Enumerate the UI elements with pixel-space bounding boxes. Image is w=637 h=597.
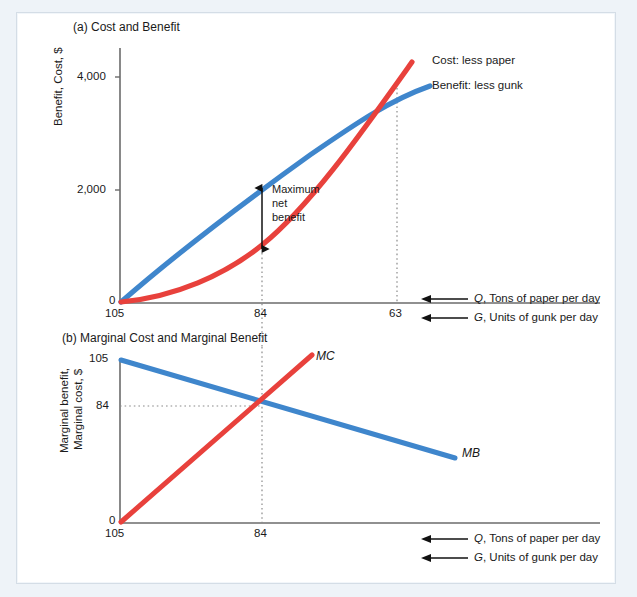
max-net-benefit-line2: net xyxy=(272,197,287,210)
panel-b-q-symbol: Q xyxy=(474,532,483,544)
panel-b-y-axis-label-line1: Marginal benefit, xyxy=(58,368,72,453)
panel-a-ytick-label-4000: 4,000 xyxy=(77,70,106,84)
panel-a-ytick-label-0: 0 xyxy=(109,294,115,308)
panel-b-ytick-label-0: 0 xyxy=(109,514,115,528)
mc-curve-label: MC xyxy=(316,349,335,363)
panel-a-g-axis-note: G, Units of gunk per day xyxy=(474,311,598,325)
panel-a-g-symbol: G xyxy=(474,311,483,323)
panel-b-y-axis-label-line2: Marginal cost, $ xyxy=(72,369,86,450)
panel-b-g-symbol: G xyxy=(474,551,483,563)
panel-b-title: (b) Marginal Cost and Marginal Benefit xyxy=(62,331,267,345)
panel-b-xtick-label-84: 84 xyxy=(254,527,267,541)
figure-root: (a) Cost and Benefit Benefit, Cost, $ 4,… xyxy=(0,0,637,597)
panel-a-q-symbol: Q xyxy=(474,292,483,304)
panel-b-ytick-label-105: 105 xyxy=(89,352,108,366)
max-net-benefit-line1: Maximum xyxy=(272,183,320,196)
panel-a-q-text: , Tons of paper per day xyxy=(483,292,600,304)
max-net-benefit-line3: benefit xyxy=(272,211,305,224)
mc-curve xyxy=(121,355,312,522)
panel-a-title: (a) Cost and Benefit xyxy=(73,20,180,34)
panel-a-q-axis-note: Q, Tons of paper per day xyxy=(474,292,600,306)
cost-series-label: Cost: less paper xyxy=(432,54,515,68)
panel-a-g-text: , Units of gunk per day xyxy=(483,311,598,323)
plot-stage: (a) Cost and Benefit Benefit, Cost, $ 4,… xyxy=(0,0,637,597)
panel-a-xtick-label-105: 105 xyxy=(105,307,124,321)
panel-a-ytick-label-2000: 2,000 xyxy=(77,183,106,197)
panel-b-q-text: , Tons of paper per day xyxy=(483,532,600,544)
panel-a-xtick-label-63: 63 xyxy=(389,307,402,321)
panel-b-xtick-label-105: 105 xyxy=(105,527,124,541)
panel-a-xtick-label-84: 84 xyxy=(254,307,267,321)
panel-b-g-text: , Units of gunk per day xyxy=(483,551,598,563)
panel-a-y-axis-label: Benefit, Cost, $ xyxy=(52,47,66,126)
panel-b-ytick-label-84: 84 xyxy=(96,399,109,413)
mb-curve-label: MB xyxy=(462,446,480,460)
benefit-series-label: Benefit: less gunk xyxy=(432,79,523,93)
panel-b-q-axis-note: Q, Tons of paper per day xyxy=(474,532,600,546)
panel-b-g-axis-note: G, Units of gunk per day xyxy=(474,551,598,565)
